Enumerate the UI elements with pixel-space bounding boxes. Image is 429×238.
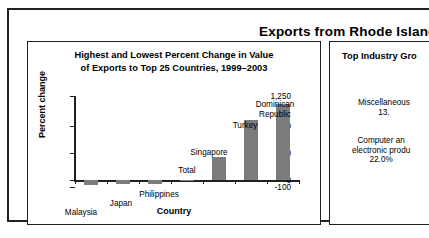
y-axis-tick-mark — [70, 126, 75, 127]
bar-category-label: Japan — [91, 199, 151, 209]
bar — [84, 180, 98, 185]
pie-chart-title: Top Industry Gro — [342, 51, 417, 61]
bar-category-label: Malaysia — [51, 208, 111, 218]
chart-title: Highest and Lowest Percent Change in Val… — [28, 49, 320, 74]
bar-category-label: Total — [157, 166, 217, 176]
y-axis-line — [74, 96, 76, 180]
document-frame: Exports from Rhode Island Highest and Lo… — [7, 8, 429, 222]
pie-slice-label-computer-line-1: Computer an — [352, 136, 410, 146]
x-axis-tick-mark — [235, 180, 236, 184]
pie-slice-label-miscellaneous: Miscellaneous 13. — [358, 98, 410, 117]
pie-slice-label-miscellaneous-name: Miscellaneous — [358, 98, 410, 108]
pie-slice-label-computer-line-2: electronic produ — [352, 146, 410, 156]
pie-slice-label-computer-electronic: Computer an electronic produ 22.0% — [352, 136, 410, 165]
bar-category-label: Philippines — [129, 190, 189, 200]
bar — [116, 180, 130, 184]
bar-category-label: Turkey — [215, 121, 275, 131]
y-axis-tick-mark — [70, 187, 75, 188]
x-axis-tick-mark — [75, 180, 76, 184]
y-axis-label: Percent change — [37, 71, 47, 138]
plot-area: -10004008001,250 MalaysiaJapanPhilippine… — [75, 96, 299, 180]
y-axis-tick-mark — [70, 96, 75, 97]
x-axis-tick-mark — [203, 180, 204, 184]
bar-category-label: Singapore — [179, 148, 239, 158]
bar-chart-panel: Highest and Lowest Percent Change in Val… — [27, 41, 321, 225]
x-axis-tick-mark — [267, 180, 268, 184]
page-title: Exports from Rhode Island — [259, 24, 429, 39]
x-axis-tick-mark — [107, 180, 108, 184]
pie-slice-label-computer-value: 22.0% — [352, 155, 410, 165]
x-axis-tick-mark — [171, 180, 172, 184]
x-axis-tick-mark — [139, 180, 140, 184]
y-axis-tick-mark — [70, 153, 75, 154]
chart-title-line-1: Highest and Lowest Percent Change in Val… — [28, 49, 320, 62]
bar — [148, 180, 162, 184]
x-axis-tick-mark — [299, 180, 300, 184]
pie-chart-panel: Top Industry Gro Miscellaneous 13. Compu… — [329, 41, 429, 225]
pie-slice-label-miscellaneous-value: 13. — [358, 108, 410, 118]
bar — [212, 157, 226, 180]
bar-category-label: DominicanRepublic — [245, 100, 305, 119]
chart-title-line-2: of Exports to Top 25 Countries, 1999–200… — [28, 62, 320, 75]
